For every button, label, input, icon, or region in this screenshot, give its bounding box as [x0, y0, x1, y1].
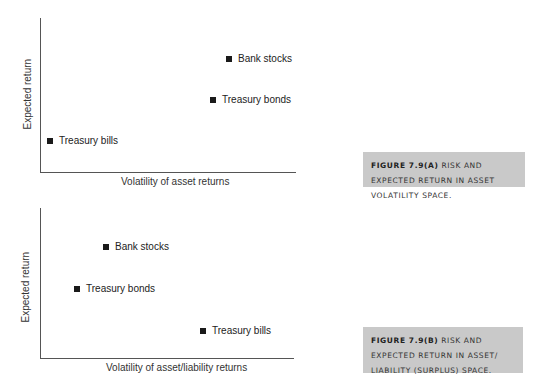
point-bank-stocks: Bank stocks — [226, 53, 292, 64]
caption-figure-b: FIGURE 7.9(B) RISK AND EXPECTED RETURN I… — [363, 327, 523, 373]
square-marker-icon — [200, 328, 206, 334]
chart-b-y-axis — [40, 208, 41, 358]
chart-a-x-label: Volatility of asset returns — [121, 176, 229, 187]
point-treasury-bonds: Treasury bonds — [210, 94, 291, 105]
caption-figure-a: FIGURE 7.9(A) RISK AND EXPECTED RETURN I… — [363, 152, 525, 187]
chart-b-y-label: Expected return — [20, 253, 31, 323]
chart-a-y-label: Expected return — [22, 60, 33, 130]
point-treasury-bills: Treasury bills — [200, 325, 271, 336]
square-marker-icon — [210, 97, 216, 103]
point-bank-stocks: Bank stocks — [103, 241, 169, 252]
square-marker-icon — [226, 56, 232, 62]
chart-b-x-axis — [40, 358, 294, 359]
square-marker-icon — [74, 286, 80, 292]
square-marker-icon — [47, 138, 53, 144]
chart-a-x-axis — [40, 172, 296, 173]
point-treasury-bills: Treasury bills — [47, 135, 118, 146]
chart-b-x-label: Volatility of asset/liability returns — [106, 362, 247, 373]
square-marker-icon — [103, 244, 109, 250]
chart-a-y-axis — [40, 18, 41, 172]
point-treasury-bonds: Treasury bonds — [74, 283, 155, 294]
